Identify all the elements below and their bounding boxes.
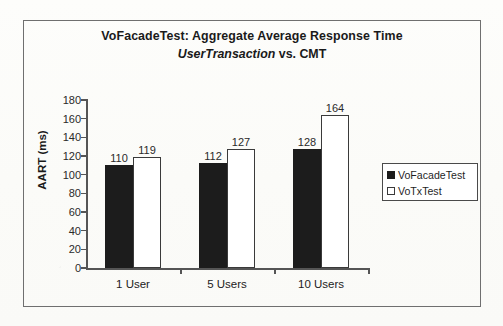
legend-item: VoTxTest (387, 183, 473, 199)
y-axis-tick-label: 60 (69, 206, 81, 218)
bar-value-label: 164 (326, 102, 344, 114)
bar-votxtest-5-users: 127 (227, 149, 255, 268)
y-axis-tick-mark (81, 137, 86, 139)
x-axis-category-label: 1 User (116, 278, 150, 290)
y-axis-tick-label: 0 (75, 262, 81, 274)
legend-item-label: VoTxTest (398, 185, 442, 197)
y-axis-tick-mark (81, 193, 86, 195)
legend-item: VoFacadeTest (387, 167, 473, 183)
y-axis-tick-label: 40 (69, 225, 81, 237)
y-axis-tick-mark (81, 249, 86, 251)
bar-votxtest-10-users: 164 (321, 115, 349, 268)
y-axis-tick-label: 80 (69, 187, 81, 199)
y-axis-tick-mark (81, 174, 86, 176)
bar-vofacadetest-1-user: 110 (105, 165, 133, 268)
y-axis-tick-label: 140 (63, 131, 81, 143)
x-axis-category-label: 10 Users (298, 278, 344, 290)
bar-value-label: 112 (204, 150, 222, 162)
y-axis-tick-mark (81, 230, 86, 232)
chart-subtitle: UserTransaction vs. CMT (23, 47, 481, 61)
chart-subtitle-plain-part: vs. CMT (275, 47, 326, 61)
y-axis-tick-mark (81, 155, 86, 157)
bar-value-label: 119 (138, 144, 156, 156)
x-axis-category-label: 5 Users (207, 278, 247, 290)
bar-value-label: 110 (110, 152, 128, 164)
filled-square-icon (387, 171, 395, 179)
bar-vofacadetest-5-users: 112 (199, 163, 227, 268)
chart-subtitle-italic-part: UserTransaction (178, 47, 276, 61)
bar-value-label: 127 (232, 136, 250, 148)
bar-value-label: 128 (298, 136, 316, 148)
y-axis-tick-mark (81, 267, 86, 269)
x-axis-line (86, 268, 368, 270)
chart-figure: VoFacadeTest: Aggregate Average Response… (0, 0, 503, 326)
chart-legend: VoFacadeTestVoTxTest (382, 163, 478, 201)
y-axis-label: AART (ms) (36, 110, 48, 210)
x-axis-category-separator (274, 268, 276, 274)
x-axis-category-separator (180, 268, 182, 274)
y-axis-tick-label: 100 (63, 169, 81, 181)
legend-item-label: VoFacadeTest (398, 169, 465, 181)
y-axis-tick-label: 180 (63, 94, 81, 106)
bar-vofacadetest-10-users: 128 (293, 149, 321, 268)
plot-area: 020406080100120140160180 110119112127128… (86, 100, 368, 268)
y-axis-tick-label: 160 (63, 113, 81, 125)
y-axis-tick-label: 120 (63, 150, 81, 162)
chart-title: VoFacadeTest: Aggregate Average Response… (23, 29, 481, 43)
y-axis-tick-mark (81, 118, 86, 120)
y-axis-tick-label: 20 (69, 243, 81, 255)
bar-votxtest-1-user: 119 (133, 157, 161, 268)
y-axis-tick-mark (81, 99, 86, 101)
x-axis-category-separator (368, 268, 370, 274)
y-axis-tick-mark (81, 211, 86, 213)
hollow-square-icon (387, 187, 395, 195)
